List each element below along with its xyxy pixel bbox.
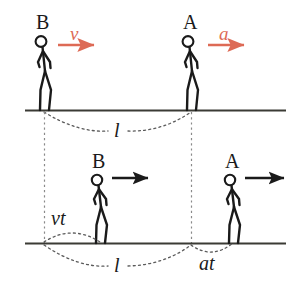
label-top-b: B [36,12,49,32]
measure-arc-vt [44,233,100,242]
stick-figure-bottom-b [92,175,107,243]
leg-back-bottom-a [229,207,234,243]
leg-front-bottom-b [101,207,107,243]
physics-diagram: B v A a l B A vt l at [0,0,299,298]
leg-front-top-b [45,71,51,110]
leg-back-top-a [187,71,192,110]
arm-far-bottom-a [227,189,232,204]
leg-back-top-b [40,71,45,110]
label-bottom-vt: vt [51,208,65,228]
diagram-canvas [0,0,299,298]
leg-back-bottom-b [96,207,101,243]
stick-figure-bottom-a [225,175,240,243]
stick-figure-top-a [183,36,198,110]
label-bottom-a: A [225,151,239,171]
leg-front-top-a [192,71,198,110]
label-bottom-at: at [199,253,215,273]
label-top-a: A [183,12,197,32]
leg-front-bottom-a [234,207,240,243]
head-top-a [183,36,194,47]
measure-arc-bottom-l-left [44,245,108,266]
arm-far-top-a [185,51,190,67]
top-scene [25,36,286,131]
label-bottom-l: l [114,255,120,275]
head-bottom-a [225,175,235,185]
head-top-b [36,36,47,47]
label-velocity-v: v [70,24,78,43]
measure-arc-top-l-right [128,112,191,131]
measure-arc-bottom-l-right [128,245,191,266]
stick-figure-top-b [36,36,51,110]
measure-arc-top-l-left [44,112,108,131]
arm-far-bottom-b [94,189,99,204]
arm-far-top-b [38,51,43,67]
label-acceleration-a: a [219,24,229,43]
label-bottom-b: B [92,151,105,171]
head-bottom-b [92,175,102,185]
label-top-l: l [114,120,120,140]
